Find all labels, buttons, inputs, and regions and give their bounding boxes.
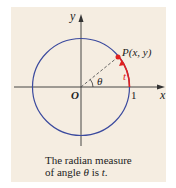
point-label: P(x, y) (121, 46, 152, 59)
x-axis-label: x (159, 88, 166, 102)
caption-line-2: of angle θ is t. (45, 166, 165, 178)
caption-text: is (89, 166, 102, 178)
y-axis-arrow-icon (79, 14, 84, 22)
theta-label: θ (97, 75, 103, 87)
caption-text: . (105, 166, 108, 178)
caption: The radian measure of angle θ is t. (45, 154, 165, 178)
one-label: 1 (131, 89, 137, 101)
point-p (116, 55, 121, 60)
caption-text: of angle (45, 166, 83, 178)
caption-line-1: The radian measure (45, 154, 165, 166)
angle-arc (90, 80, 93, 88)
origin-label: O (71, 89, 79, 101)
y-axis-label: y (69, 9, 76, 23)
